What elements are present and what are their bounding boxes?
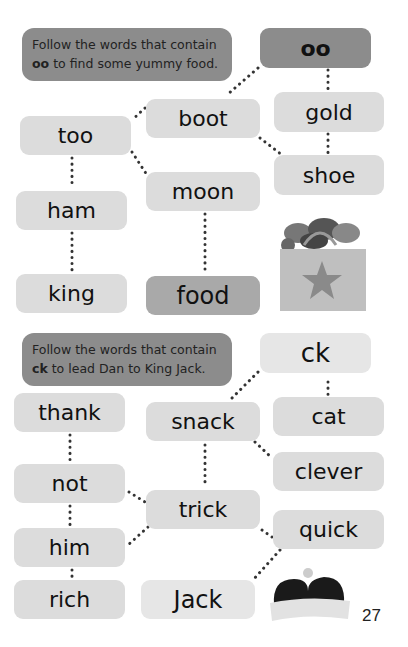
word-box-shoe[interactable]: shoe xyxy=(274,155,384,195)
word-label: clever xyxy=(295,459,362,484)
instruction-line2: to lead Dan to King Jack. xyxy=(48,361,206,376)
word-box-king[interactable]: king xyxy=(16,274,127,313)
word-label: gold xyxy=(305,100,353,125)
instruction-line1: Follow the words that contain xyxy=(32,342,217,357)
word-box-snack[interactable]: snack xyxy=(146,402,260,441)
word-box-jack[interactable]: Jack xyxy=(141,580,255,619)
word-box-too[interactable]: too xyxy=(20,116,131,155)
word-label: king xyxy=(48,281,95,306)
word-box-cat[interactable]: cat xyxy=(273,397,384,436)
word-label: shoe xyxy=(303,163,355,188)
word-label: food xyxy=(176,282,229,310)
word-box-him[interactable]: him xyxy=(14,528,125,567)
instruction-oo: Follow the words that contain oo to find… xyxy=(22,28,232,81)
word-label: trick xyxy=(179,497,228,522)
crown-icon xyxy=(268,565,352,623)
word-box-ck[interactable]: ck xyxy=(260,333,371,373)
word-label: ham xyxy=(47,198,96,223)
instruction-key: ck xyxy=(32,361,48,376)
word-label: not xyxy=(51,471,87,496)
word-label: thank xyxy=(38,400,101,425)
word-box-oo[interactable]: oo xyxy=(260,28,371,68)
word-box-thank[interactable]: thank xyxy=(14,393,125,432)
word-box-not[interactable]: not xyxy=(14,464,125,503)
word-box-boot[interactable]: boot xyxy=(146,99,260,138)
word-box-gold[interactable]: gold xyxy=(274,92,384,132)
word-box-clever[interactable]: clever xyxy=(273,452,384,491)
word-box-food[interactable]: food xyxy=(146,276,260,315)
word-box-rich[interactable]: rich xyxy=(14,580,125,619)
word-label: snack xyxy=(171,409,235,434)
word-label: quick xyxy=(299,517,358,542)
word-label: Jack xyxy=(174,586,223,614)
word-box-trick[interactable]: trick xyxy=(146,490,260,529)
word-label: cat xyxy=(311,404,345,429)
word-box-ham[interactable]: ham xyxy=(16,191,127,230)
instruction-ck: Follow the words that contain ck to lead… xyxy=(22,333,232,386)
word-label: rich xyxy=(49,587,90,612)
word-label: boot xyxy=(178,106,228,131)
word-label: oo xyxy=(300,36,330,61)
word-box-moon[interactable]: moon xyxy=(146,172,260,211)
instruction-line2: to find some yummy food. xyxy=(49,56,218,71)
instruction-key: oo xyxy=(32,56,49,71)
instruction-line1: Follow the words that contain xyxy=(32,37,217,52)
word-label: him xyxy=(49,535,91,560)
shopping-bag-icon xyxy=(274,215,370,313)
word-label: ck xyxy=(301,338,330,368)
word-label: moon xyxy=(172,179,234,204)
word-label: too xyxy=(58,123,94,148)
word-box-quick[interactable]: quick xyxy=(273,510,384,549)
page-number: 27 xyxy=(362,606,381,626)
